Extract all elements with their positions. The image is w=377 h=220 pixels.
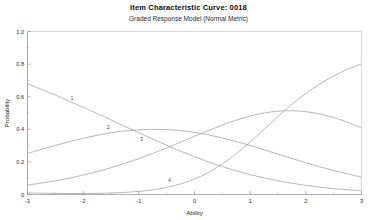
x-tick-3: 3	[360, 198, 363, 204]
x-tick-minus3: -3	[25, 198, 30, 204]
x-tick-1: 1	[249, 198, 252, 204]
x-tick-minus1: -1	[136, 198, 141, 204]
curve-1	[28, 84, 362, 191]
y-axis-title: Probability	[3, 98, 10, 128]
curve-3	[28, 111, 362, 185]
y-tick-0_2: 0.2	[16, 159, 24, 165]
x-tick-2: 2	[304, 198, 307, 204]
y-tick-0_4: 0.4	[16, 126, 24, 132]
x-tick-0: 0	[193, 198, 196, 204]
y-tick-0_6: 0.6	[16, 94, 24, 100]
plot-canvas: 0 0.2 0.4 0.6 0.8 1.0 -3 -2 -1 0 1 2 3	[0, 0, 377, 220]
y-tick-0_8: 0.8	[16, 61, 24, 67]
curve-label-3: 3	[140, 136, 143, 142]
x-axis-ticks	[28, 191, 362, 195]
curve-label-4: 4	[168, 177, 171, 183]
curve-label-1: 1	[71, 95, 74, 101]
curve-label-2: 2	[107, 124, 110, 130]
y-axis-ticks	[28, 32, 32, 195]
curve-group	[28, 64, 362, 194]
curve-4	[28, 64, 362, 194]
chart-figure: Item Characteristic Curve: 0018 Graded R…	[0, 0, 377, 220]
y-tick-0: 0	[21, 192, 24, 198]
x-axis-title: Ability	[186, 209, 203, 216]
x-tick-minus2: -2	[81, 198, 86, 204]
y-tick-1_0: 1.0	[16, 29, 24, 35]
